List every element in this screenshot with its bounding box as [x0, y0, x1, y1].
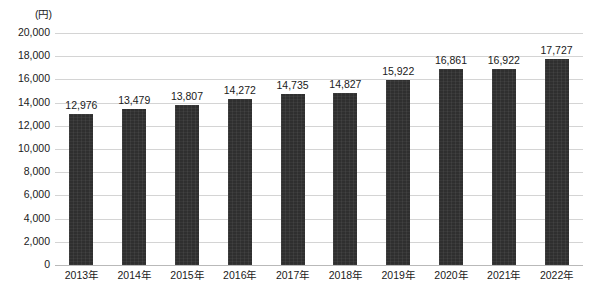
x-axis-tick-label: 2016年: [213, 268, 266, 282]
y-axis-unit-label: (円): [0, 8, 52, 20]
axis-baseline: [55, 265, 583, 266]
bar-slot: 13,479: [108, 33, 161, 265]
bar[interactable]: [281, 94, 305, 265]
bar-slot: 16,861: [425, 33, 478, 265]
bar-value-label: 14,272: [224, 84, 256, 96]
y-axis-tick-label: 14,000: [0, 97, 50, 108]
bar[interactable]: [333, 93, 357, 265]
x-axis-tick-label: 2019年: [372, 268, 425, 282]
bar-chart: (円) 20,00018,00016,00014,00012,00010,000…: [0, 0, 591, 297]
bar[interactable]: [69, 114, 93, 265]
x-axis-tick-label: 2022年: [530, 268, 583, 282]
y-axis-tick-label: 0: [0, 259, 50, 270]
bar-slot: 12,976: [55, 33, 108, 265]
y-axis-tick-label: 2,000: [0, 236, 50, 247]
bar[interactable]: [175, 105, 199, 265]
x-axis: 2013年2014年2015年2016年2017年2018年2019年2020年…: [55, 268, 583, 284]
y-axis-tick-label: 10,000: [0, 143, 50, 154]
bar-slot: 14,827: [319, 33, 372, 265]
bar-value-label: 16,861: [435, 54, 467, 66]
y-axis-tick-label: 18,000: [0, 50, 50, 61]
bar[interactable]: [228, 99, 252, 265]
bar-slot: 17,727: [530, 33, 583, 265]
bar[interactable]: [439, 69, 463, 265]
y-axis-tick-label: 6,000: [0, 189, 50, 200]
y-axis-tick-label: 20,000: [0, 27, 50, 38]
x-axis-tick-label: 2017年: [266, 268, 319, 282]
y-axis-tick-label: 8,000: [0, 166, 50, 177]
bar[interactable]: [386, 80, 410, 265]
chart-caption: [2, 289, 591, 297]
y-axis-tick-label: 12,000: [0, 120, 50, 131]
x-axis-tick-label: 2020年: [425, 268, 478, 282]
x-axis-tick-label: 2013年: [55, 268, 108, 282]
bar-slot: 16,922: [477, 33, 530, 265]
bar[interactable]: [545, 59, 569, 265]
bar-slot: 13,807: [161, 33, 214, 265]
bar-slot: 14,735: [266, 33, 319, 265]
bar[interactable]: [122, 109, 146, 265]
x-axis-tick-label: 2021年: [477, 268, 530, 282]
bar-slot: 15,922: [372, 33, 425, 265]
bar-value-label: 13,479: [118, 94, 150, 106]
x-axis-tick-label: 2018年: [319, 268, 372, 282]
bar[interactable]: [492, 69, 516, 265]
y-axis-tick-label: 4,000: [0, 213, 50, 224]
bar-series: 12,97613,47913,80714,27214,73514,82715,9…: [55, 33, 583, 265]
bar-slot: 14,272: [213, 33, 266, 265]
bar-value-label: 16,922: [488, 54, 520, 66]
bar-value-label: 17,727: [541, 44, 573, 56]
x-axis-tick-label: 2014年: [108, 268, 161, 282]
bar-value-label: 12,976: [65, 99, 97, 111]
bar-value-label: 14,735: [277, 79, 309, 91]
y-axis-tick-label: 16,000: [0, 73, 50, 84]
x-axis-tick-label: 2015年: [161, 268, 214, 282]
bar-value-label: 15,922: [382, 65, 414, 77]
bar-value-label: 14,827: [329, 78, 361, 90]
bar-value-label: 13,807: [171, 90, 203, 102]
